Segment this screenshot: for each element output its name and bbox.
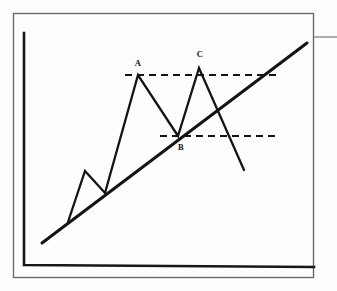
canvas-background bbox=[0, 0, 337, 291]
figure-container: A B C bbox=[0, 0, 337, 291]
chart-canvas: A B C bbox=[0, 0, 337, 291]
pivot-label-b: B bbox=[178, 142, 184, 152]
pivot-label-a: A bbox=[135, 58, 142, 68]
pivot-label-c: C bbox=[197, 49, 203, 59]
